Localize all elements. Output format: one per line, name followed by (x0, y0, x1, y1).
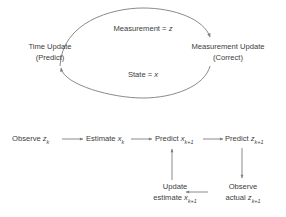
flow-step-estimate-xk-subscript: k (121, 139, 124, 145)
cycle-node-measurement-update-line2: (Correct) (176, 53, 280, 64)
cycle-node-measurement-update-line1: Measurement Update (176, 42, 280, 53)
flow-step-observe-actual-subscript: k+1 (252, 197, 261, 203)
cycle-node-time-update-line1: Time Update (8, 42, 92, 53)
flow-step-update-estimate-subscript: k+1 (188, 197, 197, 203)
flow-step-observe-zk-text: Observe (12, 134, 43, 143)
flow-step-update-estimate: Update estimate xk+1 (140, 182, 210, 206)
flow-step-observe-zk: Observe zk (12, 134, 62, 147)
flow-step-observe-actual-line1: Observe (210, 182, 276, 193)
cycle-top-arc-label: Measurement = z (96, 24, 190, 35)
cycle-node-time-update-line2: (Predict) (8, 53, 92, 64)
flow-step-estimate-xk-text: Estimate (86, 134, 118, 143)
cycle-bottom-arc-label: State = x (105, 70, 181, 81)
cycle-top-arc-label-text: Measurement = (114, 24, 169, 33)
flow-step-predict-xk1-subscript: k+1 (185, 139, 194, 145)
flow-step-observe-zk-subscript: k (47, 139, 50, 145)
cycle-top-arc-label-symbol: z (169, 24, 173, 33)
cycle-node-time-update: Time Update (Predict) (8, 42, 92, 64)
flow-step-observe-actual-text: actual (225, 193, 247, 202)
flow-step-update-estimate-line2: estimate xk+1 (140, 193, 210, 206)
flow-step-update-estimate-line1: Update (140, 182, 210, 193)
flow-step-predict-xk1: Predict xk+1 (155, 134, 207, 147)
flow-step-observe-actual: Observe actual zk+1 (210, 182, 276, 206)
flow-step-predict-zk1: Predict zk+1 (225, 134, 279, 147)
cycle-bottom-arc-label-text: State = (128, 70, 154, 79)
flow-step-estimate-xk: Estimate xk (86, 134, 134, 147)
kalman-filter-diagram: Time Update (Predict) Measurement Update… (0, 0, 286, 217)
flow-step-predict-zk1-subscript: k+1 (255, 139, 264, 145)
flow-step-update-estimate-text: estimate (153, 193, 184, 202)
flow-step-observe-actual-line2: actual zk+1 (210, 193, 276, 206)
cycle-node-measurement-update: Measurement Update (Correct) (176, 42, 280, 64)
flow-step-predict-zk1-text: Predict (225, 134, 251, 143)
flow-step-predict-xk1-text: Predict (155, 134, 181, 143)
cycle-bottom-arc-label-symbol: x (154, 70, 158, 79)
